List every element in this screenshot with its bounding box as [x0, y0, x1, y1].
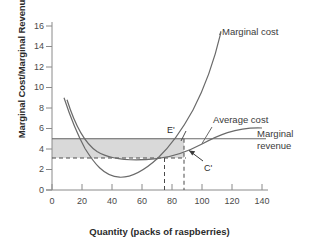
y-tick-marks	[46, 26, 52, 190]
shaded-profit-region	[52, 138, 184, 158]
x-tick-marks	[52, 184, 262, 190]
economics-cost-revenue-chart: Marginal Cost/Marginal Revenue ($) Quant…	[0, 0, 318, 248]
plot-canvas	[0, 0, 318, 248]
cost-point-arrow	[189, 151, 203, 162]
